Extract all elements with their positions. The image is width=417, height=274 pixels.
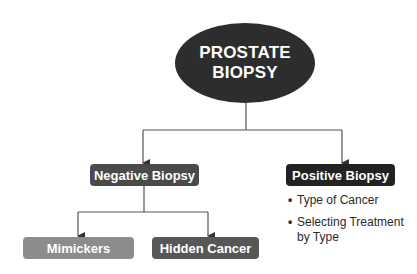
prostate-biopsy-diagram: PROSTATE BIOPSY Negative Biopsy Positive… — [0, 0, 417, 274]
bullet-text: Type of Cancer — [297, 193, 378, 208]
bullet-item: • Selecting Treatment by Type — [288, 215, 413, 245]
node-hidden-cancer: Hidden Cancer — [152, 237, 259, 259]
bullet-marker-icon: • — [288, 193, 297, 208]
root-node-prostate-biopsy: PROSTATE BIOPSY — [175, 23, 315, 103]
positive-biopsy-bullet-list: • Type of Cancer • Selecting Treatment b… — [288, 193, 413, 252]
node-negative-biopsy: Negative Biopsy — [90, 164, 199, 186]
node-mimickers: Mimickers — [23, 237, 134, 259]
bullet-text: Selecting Treatment by Type — [297, 215, 413, 245]
bullet-marker-icon: • — [288, 215, 297, 245]
root-title-line2: BIOPSY — [199, 63, 291, 83]
node-positive-biopsy: Positive Biopsy — [286, 164, 395, 186]
bullet-item: • Type of Cancer — [288, 193, 413, 208]
root-title-line1: PROSTATE — [199, 43, 291, 63]
